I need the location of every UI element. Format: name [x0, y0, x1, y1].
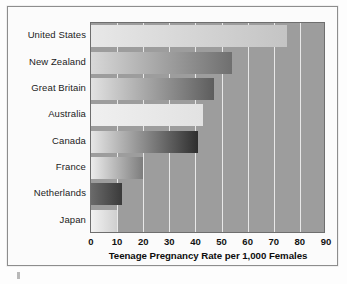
bar-australia [91, 104, 203, 126]
bar-row [91, 25, 325, 47]
bar-new-zealand [91, 52, 232, 74]
y-axis-label-france: France [8, 161, 86, 172]
y-axis-label-netherlands: Netherlands [8, 187, 86, 198]
bar-row [91, 183, 325, 205]
y-axis-label-canada: Canada [8, 135, 86, 146]
plot-area [90, 22, 325, 233]
bar-row [91, 131, 325, 153]
bar-canada [91, 131, 198, 153]
y-axis-label-united-states: United States [8, 29, 86, 40]
bar-netherlands [91, 183, 122, 205]
chart-figure: United StatesNew ZealandGreat BritainAus… [0, 0, 347, 284]
y-axis-category-labels: United StatesNew ZealandGreat BritainAus… [8, 22, 86, 233]
y-axis-label-new-zealand: New Zealand [8, 56, 86, 67]
bar-row [91, 52, 325, 74]
bar-row [91, 78, 325, 100]
x-axis-tick-labels: 0102030405060708090 [0, 236, 347, 250]
x-axis-title: Teenage Pregnancy Rate per 1,000 Females [90, 250, 326, 261]
bar-united-states [91, 25, 287, 47]
bar-japan [91, 210, 117, 232]
y-axis-label-great-britain: Great Britain [8, 82, 86, 93]
y-axis-label-japan: Japan [8, 214, 86, 225]
scan-artifact-mark [17, 272, 20, 279]
bar-row [91, 157, 325, 179]
bar-row [91, 104, 325, 126]
bar-row [91, 210, 325, 232]
bar-great-britain [91, 78, 214, 100]
y-axis-label-australia: Australia [8, 108, 86, 119]
bar-france [91, 157, 143, 179]
x-tick-label-90: 90 [311, 236, 341, 247]
